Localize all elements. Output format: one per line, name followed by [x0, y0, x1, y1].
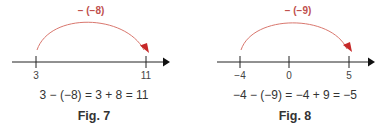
axis-arrow-icon	[368, 58, 375, 67]
jump-arc	[37, 22, 144, 50]
operation-label: − (−9)	[285, 5, 312, 16]
equation: 3 − (−8) = 3 + 8 = 11	[40, 88, 149, 102]
operation-label: − (−8)	[78, 5, 105, 16]
tick-label: 0	[286, 70, 292, 81]
tick-label: 3	[33, 70, 39, 81]
axis-arrow-icon	[163, 58, 170, 67]
tick-label: 11	[141, 70, 151, 81]
jump-arc	[241, 23, 347, 50]
figure-caption: Fig. 8	[279, 109, 312, 123]
arc-arrowhead-icon	[140, 43, 149, 53]
equation: −4 − (−9) = −4 + 9 = −5	[233, 88, 357, 102]
tick-label: −4	[234, 70, 245, 81]
figure-8: − (−9) −4 0 5 −4 − (−9) = −4 + 9 = −5 Fi…	[195, 0, 385, 131]
tick-label: 5	[346, 70, 352, 81]
figure-caption: Fig. 7	[78, 109, 111, 123]
figure-7: − (−8) 3 11 3 − (−8) = 3 + 8 = 11 Fig. 7	[0, 0, 190, 131]
